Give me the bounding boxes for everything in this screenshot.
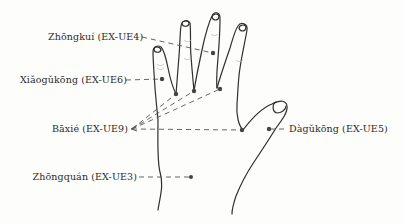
point-dagukong (267, 127, 271, 131)
point-baxie-4 (240, 128, 244, 132)
label-xiaogukong: Xiǎogǔkōng (EX-UE6) (20, 75, 124, 85)
label-zhongkui: Zhōngkuí (EX-UE4) (48, 32, 140, 42)
label-zhongquan: Zhōngquán (EX-UE3) (30, 172, 137, 182)
point-zhongkui (211, 51, 215, 55)
point-xiaogukong (160, 77, 164, 81)
label-baxie: Bāxié (EX-UE9) (40, 124, 128, 134)
point-zhongquan (189, 175, 193, 179)
knuckle-creases (157, 34, 243, 70)
hand-acupoint-diagram: Zhōngkuí (EX-UE4) Xiǎogǔkōng (EX-UE6) Bā… (0, 0, 404, 224)
point-baxie-2 (192, 89, 196, 93)
acupoint-markers (160, 51, 271, 179)
point-baxie-1 (174, 92, 178, 96)
point-baxie-3 (218, 87, 222, 91)
hand-outline (153, 13, 287, 214)
leader-lines (126, 37, 285, 177)
label-dagukong: Dàgǔkōng (EX-UE5) (289, 124, 388, 134)
